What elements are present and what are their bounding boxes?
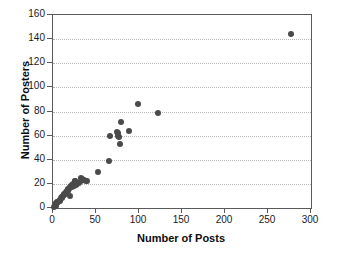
x-tick-label: 200 — [204, 215, 244, 225]
data-point — [135, 101, 141, 107]
x-tick-label: 150 — [161, 215, 201, 225]
y-axis-title: Number of Posters — [19, 30, 31, 190]
data-point — [95, 169, 101, 175]
x-tick-label: 100 — [118, 215, 158, 225]
data-point — [118, 119, 124, 125]
plot-area — [52, 14, 312, 209]
y-tick-label: 0 — [1, 202, 45, 212]
x-tick-label: 250 — [247, 215, 287, 225]
gridline — [53, 112, 311, 113]
x-axis-title: Number of Posts — [52, 232, 310, 244]
y-tick-label-wrap: 0 — [0, 202, 45, 212]
y-tick-label-wrap: 160 — [0, 9, 45, 19]
x-tick-label: 0 — [32, 215, 72, 225]
data-point — [117, 141, 123, 147]
scatter-plot-figure: 020406080100120140160 050100150200250300… — [0, 0, 338, 257]
gridline — [53, 160, 311, 161]
y-tick-label: 160 — [1, 9, 45, 19]
data-point — [107, 133, 113, 139]
gridline — [53, 63, 311, 64]
data-point — [106, 158, 112, 164]
gridline — [53, 39, 311, 40]
data-point — [116, 134, 122, 140]
gridline — [53, 184, 311, 185]
x-tick-label: 300 — [290, 215, 330, 225]
data-point — [288, 31, 294, 37]
data-point — [126, 128, 132, 134]
x-tick-label: 50 — [75, 215, 115, 225]
data-point — [155, 110, 161, 116]
data-point — [67, 193, 73, 199]
gridline — [53, 87, 311, 88]
gridline — [53, 136, 311, 137]
